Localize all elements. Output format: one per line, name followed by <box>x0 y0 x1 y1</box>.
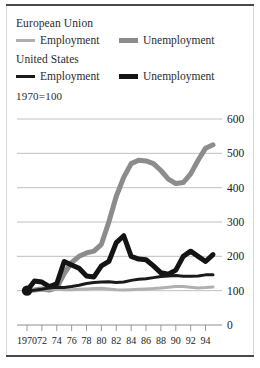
x-tick-label-72: 72 <box>37 335 47 346</box>
y-tick-label-0: 0 <box>227 319 233 331</box>
y-tick-label-100: 100 <box>227 285 245 297</box>
chart-y-tick-labels: 6005004003002001000 <box>227 113 245 331</box>
x-tick-label-82: 82 <box>111 335 121 346</box>
y-tick-label-300: 300 <box>227 216 245 228</box>
x-tick-label-88: 88 <box>156 335 166 346</box>
chart-plot-area: 6005004003002001000 19707274767880828486… <box>0 0 260 368</box>
chart-series-layer <box>27 145 213 291</box>
chart-svg: 6005004003002001000 19707274767880828486… <box>0 0 260 368</box>
x-tick-label-78: 78 <box>82 335 92 346</box>
x-tick-label-76: 76 <box>67 335 77 346</box>
x-tick-label-92: 92 <box>186 335 196 346</box>
x-tick-label-94: 94 <box>201 335 211 346</box>
y-tick-label-500: 500 <box>227 147 245 159</box>
chart-figure: European Union Employment Unemployment U… <box>0 0 260 368</box>
y-tick-label-400: 400 <box>227 182 245 194</box>
x-tick-label-1970: 1970 <box>17 335 37 346</box>
x-tick-label-86: 86 <box>141 335 151 346</box>
chart-x-tick-labels: 1970727476788082848688909294 <box>17 335 211 346</box>
chart-gridlines <box>17 119 222 291</box>
y-tick-label-600: 600 <box>227 113 245 125</box>
chart-origin-marker <box>22 285 32 295</box>
origin-marker-dot <box>22 285 32 295</box>
x-tick-label-84: 84 <box>126 335 136 346</box>
x-tick-label-90: 90 <box>171 335 181 346</box>
x-tick-label-80: 80 <box>96 335 106 346</box>
x-tick-label-74: 74 <box>52 335 62 346</box>
y-tick-label-200: 200 <box>227 250 245 262</box>
chart-x-axis <box>17 325 222 331</box>
series-line-european-union-unemployment <box>27 145 213 291</box>
